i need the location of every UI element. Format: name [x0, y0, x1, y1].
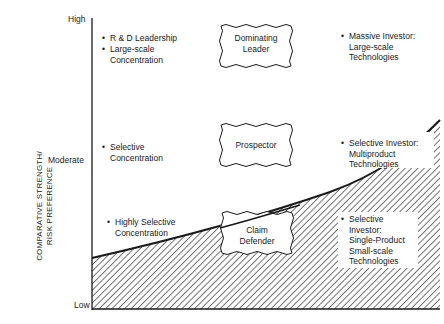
box-claim-defender: Claim Defender — [222, 225, 292, 247]
box-line: Leader — [221, 44, 291, 55]
item-line: Multiproduct — [349, 149, 418, 160]
bullet-icon: • — [341, 138, 344, 149]
box-line: Prospector — [221, 140, 291, 151]
item-selective-investor-multiproduct: • Selective Investor: Multiproduct Techn… — [349, 138, 418, 170]
item-line: Selective — [349, 214, 405, 225]
box-dominating-leader: Dominating Leader — [221, 33, 291, 55]
item-line: Single-Product — [349, 235, 405, 246]
item-selective-concentration: • Selective Concentration — [110, 142, 163, 163]
item-line: Selective — [110, 142, 163, 153]
y-axis-title-line2: RISK PREFERENCE — [45, 121, 55, 291]
item-highly-selective-concentration: • Highly Selective Concentration — [115, 217, 175, 238]
tick-moderate: Moderate — [48, 155, 84, 165]
item-line: Large-scale — [349, 42, 415, 53]
bullet-icon: • — [341, 214, 344, 225]
tick-low: Low — [74, 300, 90, 310]
bullet-icon: • — [107, 217, 110, 228]
box-line: Defender — [222, 236, 292, 247]
bullet-icon: • — [102, 33, 105, 44]
item-line: Small-scale — [349, 246, 405, 257]
box-line: Dominating — [221, 33, 291, 44]
item-line: Technologies — [349, 256, 405, 267]
item-rd-leadership: • R & D Leadership — [110, 33, 177, 44]
item-line: Massive Investor: — [349, 31, 415, 42]
item-line: Selective Investor: — [349, 138, 418, 149]
y-axis-title: COMPARATIVE STRENGTH/ RISK PREFERENCE — [35, 121, 55, 291]
item-line: Highly Selective — [115, 217, 175, 228]
item-selective-investor-single-product: • Selective Investor: Single-Product Sma… — [349, 214, 405, 267]
item-line: Technologies — [349, 159, 418, 170]
bullet-icon: • — [341, 31, 344, 42]
item-massive-investor: • Massive Investor: Large-scale Technolo… — [349, 31, 415, 63]
y-axis-title-line1: COMPARATIVE STRENGTH/ — [35, 121, 45, 291]
item-line: Large-scale — [110, 44, 163, 55]
box-prospector: Prospector — [221, 140, 291, 151]
item-line: Technologies — [349, 52, 415, 63]
item-line: Investor: — [349, 225, 405, 236]
tick-high: High — [68, 14, 85, 24]
item-line: Concentration — [110, 55, 163, 66]
item-line: Concentration — [110, 153, 163, 164]
bullet-icon: • — [102, 44, 105, 55]
item-line: R & D Leadership — [110, 33, 177, 44]
item-line: Concentration — [115, 228, 175, 239]
item-large-scale-concentration: • Large-scale Concentration — [110, 44, 163, 65]
bullet-icon: • — [102, 142, 105, 153]
box-line: Claim — [222, 225, 292, 236]
